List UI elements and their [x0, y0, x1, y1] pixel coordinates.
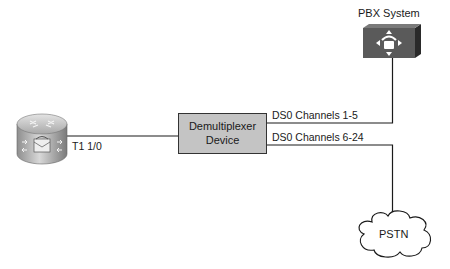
ds0-channels-1-5-label: DS0 Channels 1-5 — [272, 110, 358, 121]
demux-label-line1: Demultiplexer — [189, 120, 256, 134]
pbx-icon — [363, 24, 421, 58]
router-interface-label: T1 1/0 — [72, 141, 102, 152]
demux-label-line2: Device — [206, 134, 240, 148]
pbx-system-label: PBX System — [358, 8, 420, 19]
pstn-label: PSTN — [379, 229, 408, 240]
ds0-channels-6-24-label: DS0 Channels 6-24 — [272, 132, 364, 143]
link-ds0-6-24 — [267, 145, 393, 215]
router-icon — [17, 114, 67, 164]
demultiplexer-device: Demultiplexer Device — [178, 113, 267, 154]
